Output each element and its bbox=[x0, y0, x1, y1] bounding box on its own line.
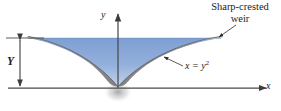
parabola-equation-label: x = y2 bbox=[185, 60, 209, 71]
weir-label-line2: weir bbox=[202, 13, 278, 25]
x-axis-label: x bbox=[266, 80, 270, 91]
weir-label-line1: Sharp-crested bbox=[211, 1, 269, 12]
equation-text: x = y bbox=[185, 60, 206, 71]
weir-leader-line bbox=[219, 25, 236, 37]
y-axis-label: y bbox=[101, 9, 105, 20]
sharp-crested-weir-label: Sharp-crested weir bbox=[202, 1, 278, 25]
weir-figure: Sharp-crested weir x = y2 y x Y bbox=[0, 0, 281, 111]
equation-leader-line bbox=[164, 57, 183, 66]
depth-dimension-label: Y bbox=[7, 55, 14, 68]
equation-exponent: 2 bbox=[206, 59, 209, 66]
